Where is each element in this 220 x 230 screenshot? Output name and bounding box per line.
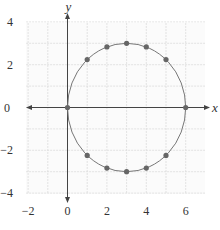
x-tick-label: 0 xyxy=(65,204,71,218)
y-tick-label: 4 xyxy=(7,15,13,29)
data-point xyxy=(85,153,90,158)
x-tick-label: 2 xyxy=(104,204,110,218)
x-tick-label: −2 xyxy=(22,204,35,218)
x-tick-label: 4 xyxy=(143,204,149,218)
x-tick-label: 6 xyxy=(183,204,189,218)
y-tick-label: 2 xyxy=(7,58,13,72)
data-point xyxy=(85,57,90,62)
y-tick-label: 0 xyxy=(4,101,10,115)
y-axis-label: y xyxy=(64,0,72,14)
y-tick-label: −2 xyxy=(0,143,13,157)
y-axis-down-arrow-icon xyxy=(65,197,70,203)
data-point xyxy=(124,41,129,46)
data-point xyxy=(163,153,168,158)
data-point xyxy=(163,57,168,62)
x-axis-label: x xyxy=(211,100,218,115)
data-point xyxy=(144,165,149,170)
data-point xyxy=(104,44,109,49)
data-point xyxy=(104,165,109,170)
data-point xyxy=(183,105,188,110)
data-point xyxy=(144,44,149,49)
data-point xyxy=(65,105,70,110)
circle-plot: −20246420−2−4xy xyxy=(0,0,220,230)
y-tick-label: −4 xyxy=(0,186,13,200)
data-point xyxy=(124,169,129,174)
x-axis-arrow-icon xyxy=(204,105,210,110)
